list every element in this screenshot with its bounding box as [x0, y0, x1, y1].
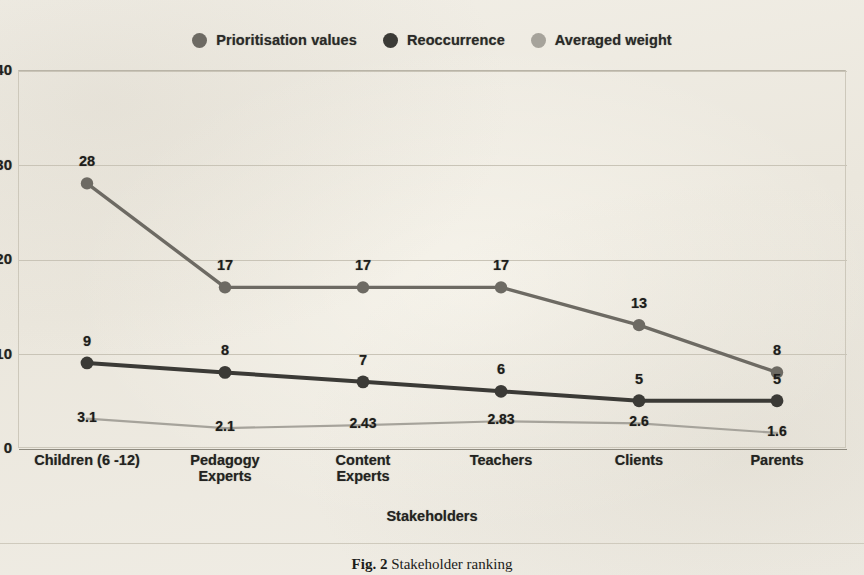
figure-caption: Fig. 2 Stakeholder ranking — [0, 556, 864, 573]
data-point-marker[interactable] — [81, 177, 93, 189]
data-point-marker[interactable] — [633, 394, 646, 407]
data-point-marker[interactable] — [771, 394, 784, 407]
y-axis-tick-label: 20 — [0, 250, 12, 267]
data-label-reoccurrence: 6 — [497, 361, 505, 377]
legend-label: Reoccurrence — [407, 32, 505, 48]
data-label-reoccurrence: 9 — [83, 333, 91, 349]
x-axis-tick-labels: Children (6 -12)Pedagogy ExpertsContent … — [18, 452, 846, 498]
data-label-prioritisation: 13 — [631, 295, 647, 311]
data-label-averaged-weight: 3.1 — [77, 409, 96, 425]
circle-marker-icon — [531, 33, 546, 48]
x-axis-tick-label: Teachers — [470, 452, 533, 468]
legend-label: Averaged weight — [555, 32, 672, 48]
data-label-averaged-weight: 2.43 — [349, 415, 376, 431]
y-axis-tick-label: 10 — [0, 345, 12, 362]
legend-item-reoccurrence[interactable]: Reoccurrence — [383, 32, 505, 48]
chart-legend: Prioritisation values Reoccurrence Avera… — [0, 32, 864, 48]
data-label-reoccurrence: 5 — [773, 371, 781, 387]
data-point-marker[interactable] — [495, 281, 507, 293]
data-point-marker[interactable] — [219, 366, 232, 379]
x-axis-title: Stakeholders — [0, 508, 864, 524]
data-point-marker[interactable] — [357, 375, 370, 388]
chart-series-canvas — [18, 70, 846, 448]
x-axis-tick-label: Content Experts — [336, 452, 391, 484]
data-label-averaged-weight: 2.6 — [629, 413, 648, 429]
y-axis-tick-label: 0 — [0, 439, 12, 456]
caption-divider — [0, 543, 864, 544]
data-label-reoccurrence: 8 — [221, 342, 229, 358]
series-line-reoccurrence — [87, 363, 777, 401]
data-point-marker[interactable] — [81, 357, 94, 370]
x-axis-tick-label: Pedagogy Experts — [190, 452, 259, 484]
data-point-marker[interactable] — [633, 319, 645, 331]
gridline-0 — [19, 449, 847, 450]
data-label-reoccurrence: 7 — [359, 352, 367, 368]
circle-marker-icon — [383, 33, 398, 48]
data-label-reoccurrence: 5 — [635, 371, 643, 387]
data-label-averaged-weight: 1.6 — [767, 423, 786, 439]
data-label-prioritisation: 17 — [493, 257, 509, 273]
data-label-prioritisation: 8 — [773, 342, 781, 358]
data-point-marker[interactable] — [357, 281, 369, 293]
legend-label: Prioritisation values — [216, 32, 357, 48]
data-point-marker[interactable] — [219, 281, 231, 293]
series-line-prioritisation-values — [87, 183, 777, 372]
data-point-marker[interactable] — [495, 385, 508, 398]
data-label-prioritisation: 17 — [355, 257, 371, 273]
y-axis-tick-label: 30 — [0, 156, 12, 173]
y-axis-tick-label: 40 — [0, 61, 12, 78]
figure-caption-text: Stakeholder ranking — [391, 556, 512, 572]
x-axis-tick-label: Parents — [750, 452, 803, 468]
circle-marker-icon — [192, 33, 207, 48]
x-axis-tick-label: Children (6 -12) — [34, 452, 140, 468]
data-label-prioritisation: 17 — [217, 257, 233, 273]
data-label-averaged-weight: 2.83 — [487, 411, 514, 427]
figure-caption-label: Fig. 2 — [352, 556, 388, 572]
legend-item-prioritisation-values[interactable]: Prioritisation values — [192, 32, 357, 48]
data-label-prioritisation: 28 — [79, 153, 95, 169]
series-line-averaged-weight — [87, 419, 777, 433]
data-label-averaged-weight: 2.1 — [215, 418, 234, 434]
legend-item-averaged-weight[interactable]: Averaged weight — [531, 32, 672, 48]
x-axis-tick-label: Clients — [615, 452, 663, 468]
